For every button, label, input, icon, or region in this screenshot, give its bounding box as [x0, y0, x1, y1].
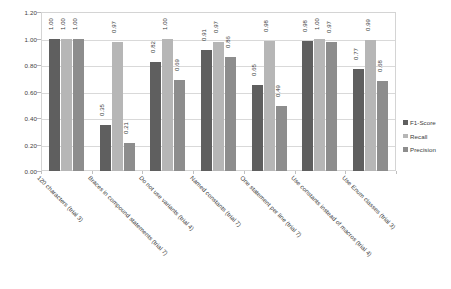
bar-value-label: 0.35	[99, 104, 105, 116]
bar: 0.97	[213, 42, 224, 171]
bar: 0.35	[100, 125, 111, 171]
bar-group: 0.650.980.49	[252, 12, 287, 171]
bar-value-label: 0.86	[225, 36, 231, 48]
bar-value-label: 1.00	[72, 17, 78, 29]
bar-value-label: 0.69	[174, 59, 180, 71]
y-axis-tick-label: 0.80	[1, 62, 37, 69]
bar-value-label: 0.98	[263, 20, 269, 32]
bar: 1.00	[49, 39, 60, 172]
bar: 0.82	[150, 62, 161, 171]
bar-value-label: 0.98	[302, 20, 308, 32]
bar: 0.65	[252, 85, 263, 171]
bar: 0.77	[353, 69, 364, 171]
bar: 0.49	[276, 106, 287, 171]
y-axis-tick-label: 0.20	[1, 141, 37, 148]
x-axis-category-label: 120 characters (trial 3)	[36, 174, 85, 223]
x-axis-category-label: Use Enum classes (trial 3)	[341, 174, 397, 230]
bar: 0.68	[377, 81, 388, 171]
bar-value-label: 0.68	[377, 60, 383, 72]
bar-group: 1.001.001.00	[49, 12, 84, 171]
legend-item[interactable]: Precision	[403, 146, 451, 153]
bar: 0.69	[174, 80, 185, 171]
bar-value-label: 0.97	[213, 21, 219, 33]
bar-value-label: 1.00	[314, 17, 320, 29]
y-axis-tick-label: 1.20	[1, 9, 37, 16]
bar-group: 0.821.000.69	[150, 12, 185, 171]
bar-group: 0.350.970.21	[100, 12, 135, 171]
legend-label: Recall	[410, 133, 428, 140]
bar-value-label: 0.82	[150, 41, 156, 53]
bar: 0.97	[326, 42, 337, 171]
bar-value-label: 0.65	[251, 64, 257, 76]
legend-swatch-icon	[403, 147, 408, 152]
bar-chart: 0.000.200.400.600.801.001.20 1.001.001.0…	[0, 0, 451, 289]
bar-value-label: 0.49	[275, 85, 281, 97]
bar-group: 0.910.970.86	[201, 12, 236, 171]
x-axis-category-label: Use constants instead of macros (trial 4…	[290, 174, 374, 258]
y-axis-tick-label: 1.00	[1, 35, 37, 42]
bar: 0.91	[201, 50, 212, 171]
bar: 1.00	[162, 39, 173, 172]
x-axis-labels: 120 characters (trial 3)Braces in compou…	[41, 174, 396, 286]
bar: 1.00	[73, 39, 84, 172]
bar: 0.98	[264, 41, 275, 171]
chart-legend: F1-ScoreRecallPrecision	[403, 119, 451, 160]
legend-item[interactable]: F1-Score	[403, 119, 451, 126]
x-axis-category-label: Named constants (trial 7)	[189, 174, 243, 228]
x-axis-category-label: Do not use variants (trial 4)	[138, 174, 196, 232]
bar: 1.00	[314, 39, 325, 172]
x-axis-tick-mark	[396, 171, 397, 174]
bar: 0.98	[302, 41, 313, 171]
bar: 0.86	[225, 57, 236, 171]
bar-value-label: 0.97	[111, 21, 117, 33]
legend-swatch-icon	[403, 120, 408, 125]
bar: 0.21	[124, 143, 135, 171]
bar: 1.00	[61, 39, 72, 172]
bars-layer: 1.001.001.000.350.970.210.821.000.690.91…	[41, 12, 396, 171]
y-axis-tick-label: 0.60	[1, 88, 37, 95]
bar-value-label: 0.21	[123, 122, 129, 134]
bar-group: 0.981.000.97	[302, 12, 337, 171]
bar-value-label: 1.00	[48, 17, 54, 29]
bar: 0.97	[112, 42, 123, 171]
x-axis-category-label: Braces in compound statements (trial 7)	[87, 174, 169, 256]
bar: 0.99	[365, 40, 376, 171]
legend-label: F1-Score	[410, 119, 436, 126]
bar-value-label: 0.91	[201, 29, 207, 41]
legend-item[interactable]: Recall	[403, 133, 451, 140]
bar-value-label: 0.99	[365, 19, 371, 31]
bar-value-label: 1.00	[60, 17, 66, 29]
legend-swatch-icon	[403, 134, 408, 139]
bar-value-label: 0.97	[326, 21, 332, 33]
legend-label: Precision	[410, 146, 436, 153]
bar-value-label: 1.00	[162, 17, 168, 29]
bar-value-label: 0.77	[353, 48, 359, 60]
y-axis-tick-label: 0.40	[1, 115, 37, 122]
y-axis-tick-label: 0.00	[1, 168, 37, 175]
bar-group: 0.770.990.68	[353, 12, 388, 171]
